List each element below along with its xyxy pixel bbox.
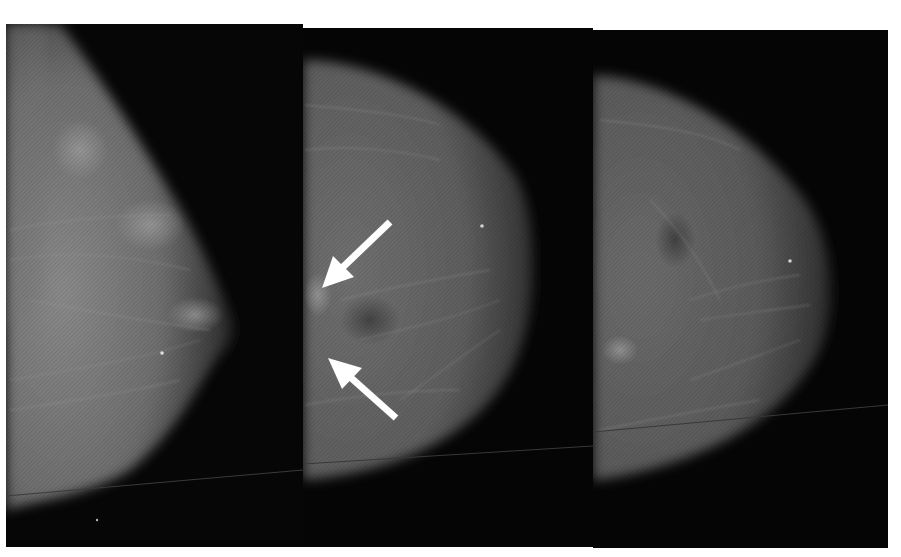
mammogram-panel-2 [303, 28, 593, 547]
mammogram-canvas [0, 0, 901, 557]
mammogram-panel-3 [593, 30, 888, 548]
mammogram-panel-1 [6, 24, 303, 547]
mammogram-figure [0, 0, 901, 557]
